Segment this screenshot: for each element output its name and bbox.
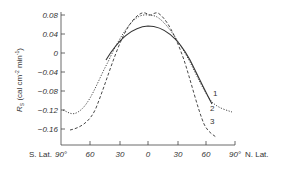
y-tick: −0.04 bbox=[38, 68, 59, 77]
curves bbox=[63, 13, 232, 137]
x-tick: 60 bbox=[202, 150, 211, 159]
y-tick: 0.08 bbox=[42, 11, 58, 20]
svg-text:RS (cal cm-2 min-1): RS (cal cm-2 min-1) bbox=[14, 48, 25, 112]
curve-labels: 1 2 3 bbox=[210, 89, 218, 126]
y-tick: −0.16 bbox=[38, 125, 59, 134]
y-tick: −0.12 bbox=[38, 106, 59, 115]
curve-2 bbox=[63, 15, 232, 114]
x-label-north: N. Lat. bbox=[245, 150, 269, 159]
curve-3 bbox=[70, 13, 216, 137]
curve-1 bbox=[106, 26, 212, 104]
x-tick: 0 bbox=[146, 150, 151, 159]
x-label-south: S. Lat. bbox=[29, 150, 52, 159]
axes bbox=[61, 12, 235, 145]
chart-canvas: 0.08 0.04 0 −0.04 −0.08 −0.12 −0.16 90° … bbox=[0, 0, 283, 171]
y-axis-label: RS (cal cm-2 min-1) bbox=[14, 48, 25, 112]
curve-label-2: 2 bbox=[210, 104, 215, 113]
x-tick: 90° bbox=[229, 150, 242, 159]
y-tick-labels: 0.08 0.04 0 −0.04 −0.08 −0.12 −0.16 bbox=[38, 11, 59, 134]
y-tick: 0 bbox=[54, 49, 59, 58]
y-tick: 0.04 bbox=[42, 30, 58, 39]
x-tick: 30 bbox=[174, 150, 183, 159]
x-tick: 60 bbox=[86, 150, 95, 159]
x-tick: 90° bbox=[55, 150, 68, 159]
y-tick: −0.08 bbox=[38, 87, 59, 96]
x-tick-labels: 90° 60 30 0 30 60 90° S. Lat. N. Lat. bbox=[29, 150, 269, 159]
curve-label-3: 3 bbox=[210, 117, 215, 126]
curve-label-1: 1 bbox=[213, 89, 218, 98]
x-tick: 30 bbox=[116, 150, 125, 159]
